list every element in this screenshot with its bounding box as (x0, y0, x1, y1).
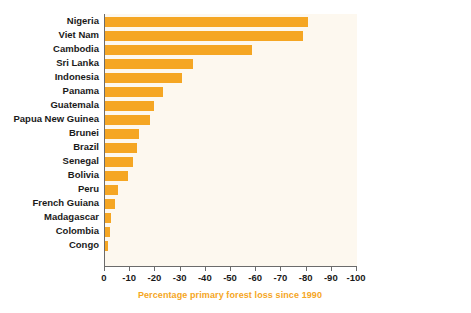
bar-row: Papua New Guinea (105, 113, 357, 127)
category-label: Cambodia (53, 42, 99, 56)
bar-row: Indonesia (105, 71, 357, 85)
category-label: Indonesia (55, 70, 99, 84)
bar (105, 73, 182, 83)
bar-row: Cambodia (105, 43, 357, 57)
x-tick-label: -10 (122, 272, 136, 283)
x-tick-label: -40 (198, 272, 212, 283)
category-label: Papua New Guinea (13, 112, 99, 126)
bar-row: Nigeria (105, 15, 357, 29)
category-label: Guatemala (50, 98, 99, 112)
category-label: Brunei (69, 126, 99, 140)
x-axis: 0 -10 -20 -30 -40 -50 -60 -70 -80 -90 -1… (104, 267, 356, 289)
bar (105, 87, 163, 97)
x-tick (331, 267, 332, 271)
bar (105, 171, 128, 181)
bar (105, 213, 111, 223)
x-tick (104, 267, 105, 271)
x-tick-label: -90 (324, 272, 338, 283)
category-label: Nigeria (67, 14, 99, 28)
bar-row: Brazil (105, 141, 357, 155)
bar-row: Bolivia (105, 169, 357, 183)
x-tick (154, 267, 155, 271)
x-tick-label: -100 (346, 272, 365, 283)
category-label: Sri Lanka (56, 56, 99, 70)
x-tick-label: -30 (173, 272, 187, 283)
category-label: French Guiana (32, 196, 99, 210)
bar-row: Madagascar (105, 211, 357, 225)
bar-row: Brunei (105, 127, 357, 141)
x-tick (356, 267, 357, 271)
x-tick-label: -80 (299, 272, 313, 283)
bar (105, 241, 108, 251)
bar (105, 115, 150, 125)
chart-container: Nigeria Viet Nam Cambodia Sri Lanka Indo… (0, 0, 471, 313)
plot-area: Nigeria Viet Nam Cambodia Sri Lanka Indo… (104, 14, 357, 267)
category-label: Colombia (56, 224, 99, 238)
bar-row: Senegal (105, 155, 357, 169)
category-label: Congo (69, 238, 99, 252)
x-tick-label: -70 (274, 272, 288, 283)
bar-row: Guatemala (105, 99, 357, 113)
bar (105, 143, 137, 153)
x-tick-label: 0 (101, 272, 106, 283)
bar (105, 31, 303, 41)
x-tick (205, 267, 206, 271)
x-tick (129, 267, 130, 271)
bar-row: Sri Lanka (105, 57, 357, 71)
bar-row: Peru (105, 183, 357, 197)
bar (105, 199, 115, 209)
bar-row: Colombia (105, 225, 357, 239)
bar (105, 157, 133, 167)
x-axis-title: Percentage primary forest loss since 199… (104, 290, 356, 300)
x-tick (230, 267, 231, 271)
x-tick-label: -60 (248, 272, 262, 283)
bar (105, 101, 154, 111)
bar (105, 45, 252, 55)
category-label: Bolivia (68, 168, 99, 182)
x-tick (280, 267, 281, 271)
x-tick (180, 267, 181, 271)
category-label: Brazil (73, 140, 99, 154)
bar-row: Congo (105, 239, 357, 253)
x-tick (255, 267, 256, 271)
bar (105, 227, 110, 237)
category-label: Panama (63, 84, 99, 98)
category-label: Peru (78, 182, 99, 196)
bar-row: Panama (105, 85, 357, 99)
bar-row: French Guiana (105, 197, 357, 211)
bar (105, 185, 118, 195)
bar (105, 129, 139, 139)
x-tick-label: -50 (223, 272, 237, 283)
bar (105, 17, 308, 27)
bar-row: Viet Nam (105, 29, 357, 43)
bar-series: Nigeria Viet Nam Cambodia Sri Lanka Indo… (105, 14, 357, 266)
category-label: Madagascar (44, 210, 99, 224)
x-tick (306, 267, 307, 271)
category-label: Viet Nam (59, 28, 99, 42)
bar (105, 59, 193, 69)
category-label: Senegal (63, 154, 99, 168)
x-tick-label: -20 (148, 272, 162, 283)
